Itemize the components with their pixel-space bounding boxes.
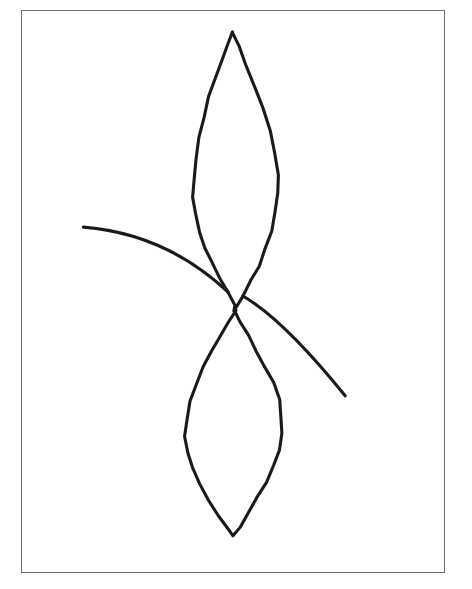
streamline-drawing: [83, 32, 345, 536]
figure-canvas: [22, 11, 444, 572]
right-spiral-path: [243, 296, 345, 396]
figure-frame: [21, 10, 445, 573]
figure-page: [0, 0, 472, 589]
lower-lobe-path: [185, 310, 282, 536]
left-spiral-path: [83, 227, 228, 292]
upper-lobe-path: [193, 32, 279, 311]
